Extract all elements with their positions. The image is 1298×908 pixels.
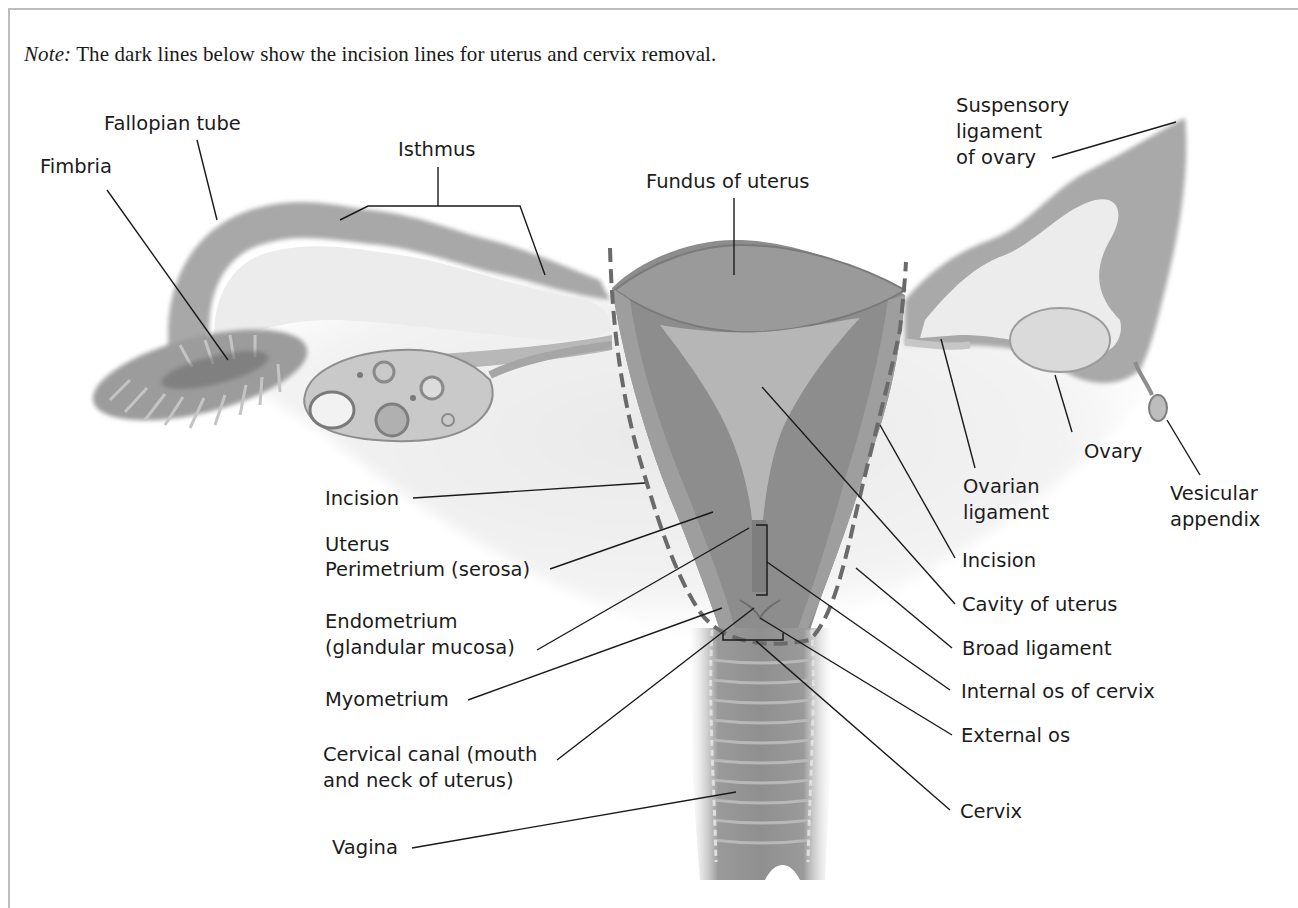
label-fallopian-tube: Fallopian tube <box>104 112 241 136</box>
label-endometrium-line1: Endometrium <box>325 610 457 634</box>
label-broad-ligament: Broad ligament <box>962 637 1112 661</box>
label-cavity-of-uterus: Cavity of uterus <box>962 593 1117 617</box>
label-vesicular-line2: appendix <box>1170 508 1260 532</box>
label-cervical-canal-line1: Cervical canal (mouth <box>323 743 537 767</box>
label-ovarian-ligament-line2: ligament <box>963 501 1049 525</box>
label-fundus-of-uterus: Fundus of uterus <box>646 170 810 194</box>
label-fimbria: Fimbria <box>40 155 112 179</box>
label-external-os: External os <box>961 724 1070 748</box>
vagina-shape <box>689 628 832 880</box>
label-incision-left: Incision <box>325 487 399 511</box>
label-isthmus: Isthmus <box>398 138 475 162</box>
label-uterus: Uterus <box>325 533 389 557</box>
label-suspensory-line1: Suspensory <box>956 94 1069 118</box>
label-suspensory-line3: of ovary <box>956 146 1036 170</box>
label-vagina: Vagina <box>332 836 398 860</box>
label-incision-right: Incision <box>962 549 1036 573</box>
label-cervical-canal-line2: and neck of uterus) <box>323 769 514 793</box>
label-ovarian-ligament-line1: Ovarian <box>963 475 1040 499</box>
label-perimetrium: Perimetrium (serosa) <box>325 558 530 582</box>
label-ovary: Ovary <box>1084 440 1142 464</box>
label-vesicular-line1: Vesicular <box>1170 482 1258 506</box>
label-myometrium: Myometrium <box>325 688 449 712</box>
label-cervix: Cervix <box>960 800 1022 824</box>
label-endometrium-line2: (glandular mucosa) <box>325 636 515 660</box>
label-suspensory-line2: ligament <box>956 120 1042 144</box>
label-internal-os: Internal os of cervix <box>961 680 1155 704</box>
